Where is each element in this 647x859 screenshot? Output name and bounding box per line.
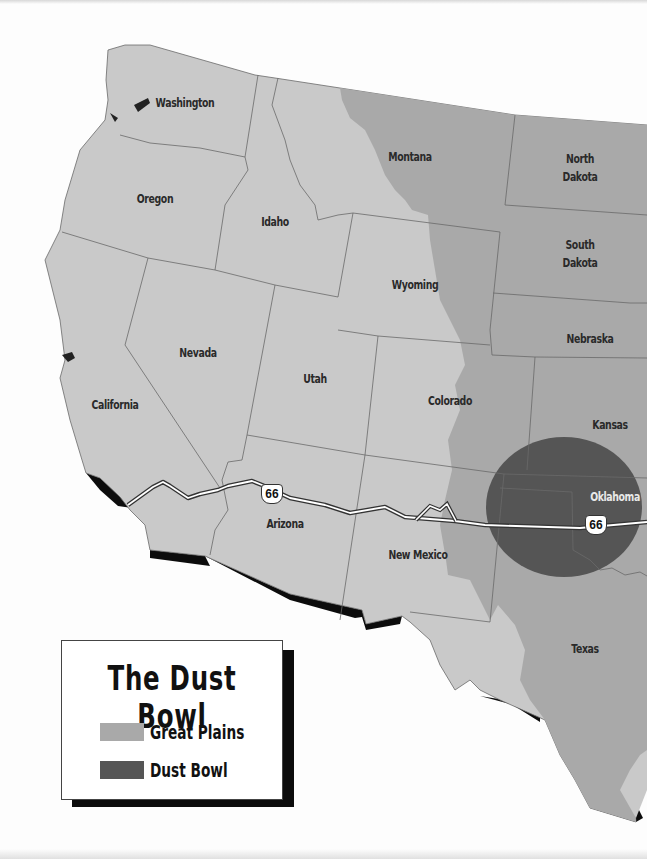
map-page: Washington Oregon Idaho Montana North Da…	[0, 0, 647, 859]
label-washington: Washington	[154, 94, 216, 112]
label-arizona: Arizona	[262, 515, 309, 533]
label-colorado: Colorado	[423, 392, 478, 410]
label-idaho: Idaho	[256, 213, 295, 231]
dust-bowl-region	[486, 437, 642, 577]
label-oklahoma: Oklahoma	[584, 488, 646, 506]
great-plains-swatch	[100, 723, 144, 741]
bottom-edge	[0, 849, 647, 859]
route-66-shield-east: 66	[585, 515, 607, 535]
label-north-dakota: North Dakota	[561, 150, 600, 186]
label-kansas: Kansas	[587, 416, 634, 434]
dust-bowl-swatch	[100, 761, 144, 779]
label-wyoming: Wyoming	[392, 276, 439, 294]
legend-item-dust-bowl: Dust Bowl	[100, 759, 258, 781]
label-utah: Utah	[296, 370, 335, 388]
legend: The Dust Bowl Great Plains Dust Bowl	[61, 640, 283, 800]
label-oregon: Oregon	[132, 190, 179, 208]
label-nevada: Nevada	[175, 344, 222, 362]
label-california: California	[84, 396, 146, 414]
label-nebraska: Nebraska	[563, 330, 618, 348]
legend-label: Dust Bowl	[150, 759, 228, 781]
route-66-shield-west: 66	[261, 484, 283, 504]
label-south-dakota: South Dakota	[561, 236, 600, 272]
legend-label: Great Plains	[150, 721, 244, 743]
label-new-mexico: New Mexico	[387, 546, 449, 564]
label-texas: Texas	[562, 640, 609, 658]
label-montana: Montana	[387, 148, 434, 166]
legend-item-great-plains: Great Plains	[100, 721, 281, 743]
